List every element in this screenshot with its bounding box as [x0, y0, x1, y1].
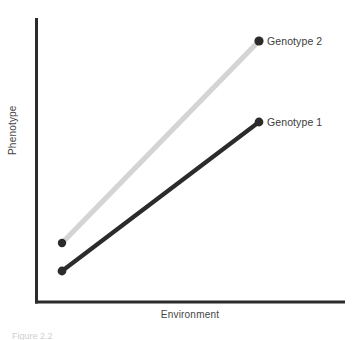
series-label-genotype-1: Genotype 1 — [267, 116, 322, 128]
x-axis-title: Environment — [35, 309, 345, 320]
series-genotype-1-marker-end — [255, 118, 264, 127]
y-axis-title: Phenotype — [7, 121, 18, 155]
figure-caption: Figure 2.2 — [12, 331, 53, 340]
chart-plot-area — [0, 0, 353, 340]
series-genotype-1-marker-start — [58, 267, 67, 276]
series-label-genotype-2: Genotype 2 — [267, 35, 322, 47]
series-genotype-2-marker-end — [254, 36, 263, 45]
reaction-norm-figure: Genotype 2 Genotype 1 Phenotype Environm… — [0, 0, 353, 340]
series-genotype-2-marker-start — [58, 239, 66, 247]
